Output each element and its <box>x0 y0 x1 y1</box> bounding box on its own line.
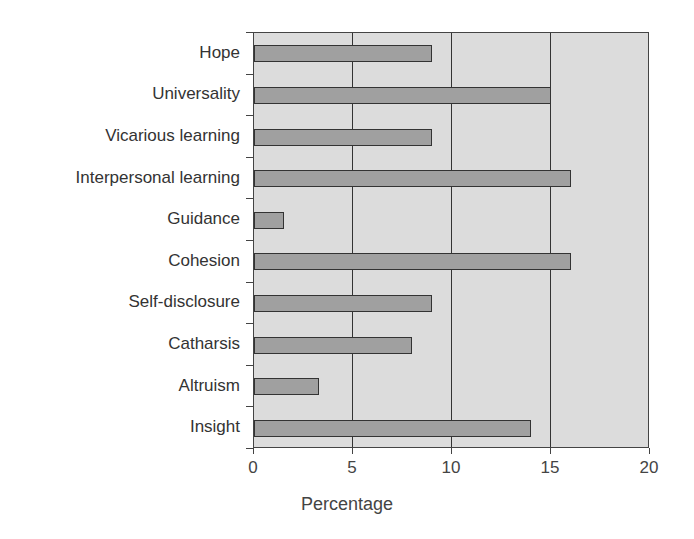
x-tick <box>253 448 254 454</box>
category-label: Catharsis <box>168 334 240 354</box>
bar <box>254 337 412 354</box>
category-label: Altruism <box>179 376 240 396</box>
x-tick-label: 10 <box>431 458 471 478</box>
y-tick <box>246 115 253 116</box>
y-tick <box>246 282 253 283</box>
bar <box>254 129 432 146</box>
x-tick-label: 5 <box>332 458 372 478</box>
category-label: Guidance <box>167 209 240 229</box>
y-tick <box>246 74 253 75</box>
x-axis-label: Percentage <box>301 494 501 515</box>
category-label: Cohesion <box>168 251 240 271</box>
y-tick <box>246 365 253 366</box>
bar <box>254 212 284 229</box>
x-tick <box>649 448 650 454</box>
bar <box>254 87 551 104</box>
category-label: Insight <box>190 417 240 437</box>
y-tick <box>246 406 253 407</box>
category-label: Vicarious learning <box>105 126 240 146</box>
y-tick <box>246 323 253 324</box>
y-tick <box>246 240 253 241</box>
bar <box>254 378 319 395</box>
plot-area <box>253 32 649 448</box>
bar <box>254 170 571 187</box>
category-label: Interpersonal learning <box>76 168 240 188</box>
y-tick <box>246 198 253 199</box>
y-tick <box>246 448 253 449</box>
y-tick <box>246 32 253 33</box>
bar <box>254 420 531 437</box>
x-tick-label: 15 <box>530 458 570 478</box>
category-label: Hope <box>199 43 240 63</box>
category-label: Self-disclosure <box>129 292 241 312</box>
y-tick <box>246 157 253 158</box>
bar <box>254 45 432 62</box>
x-tick-label: 0 <box>233 458 273 478</box>
bar <box>254 295 432 312</box>
x-tick-label: 20 <box>629 458 669 478</box>
bar <box>254 253 571 270</box>
x-tick <box>352 448 353 454</box>
x-tick <box>451 448 452 454</box>
category-label: Universality <box>152 84 240 104</box>
x-tick <box>550 448 551 454</box>
